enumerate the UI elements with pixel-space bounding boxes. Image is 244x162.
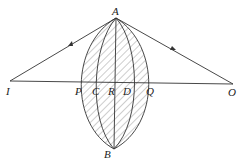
label-Q: Q — [146, 85, 154, 97]
label-R: R — [107, 85, 115, 97]
lens-diagram: A B I O P C R D Q — [0, 0, 244, 162]
label-B: B — [104, 148, 111, 160]
arrow-ray-left — [68, 41, 73, 46]
label-D: D — [122, 85, 131, 97]
label-I: I — [5, 85, 11, 97]
label-C: C — [92, 85, 100, 97]
arrow-ray-right — [170, 46, 176, 50]
label-A: A — [111, 5, 119, 17]
label-O: O — [228, 86, 236, 98]
label-P: P — [74, 85, 82, 97]
